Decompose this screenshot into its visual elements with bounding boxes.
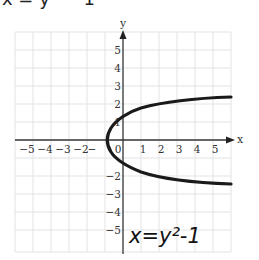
svg-text:−5: −5: [106, 224, 121, 236]
x-axis-label: x: [237, 133, 244, 146]
svg-text:−3: −3: [55, 143, 70, 155]
svg-text:4: 4: [114, 62, 121, 74]
handwritten-equation-annotation: x=y²-1: [128, 224, 201, 248]
y-axis-arrow-icon: [120, 30, 127, 39]
svg-text:0: 0: [115, 143, 122, 155]
y-axis-label: y: [119, 17, 127, 30]
svg-text:−5: −5: [19, 143, 34, 155]
svg-text:−4: −4: [37, 143, 53, 155]
svg-text:−3: −3: [106, 188, 121, 200]
svg-text:3: 3: [176, 143, 183, 155]
svg-text:3: 3: [114, 80, 121, 92]
svg-text:5: 5: [114, 44, 121, 56]
svg-text:−2: −2: [106, 170, 121, 182]
svg-text:−2: −2: [73, 143, 88, 155]
x-tick-labels: −5 −4 −3 −2 − 0 1 2 3 4 5: [19, 143, 218, 155]
svg-text:4: 4: [194, 143, 201, 155]
svg-text:2: 2: [158, 143, 165, 155]
svg-text:2: 2: [114, 98, 121, 110]
parabola-graph: x y −5 −4 −3 −2 − 0 1 2 3 4 5 5 4 3 2 1 …: [0, 0, 259, 260]
svg-text:−: −: [88, 143, 97, 155]
svg-text:−4: −4: [106, 206, 122, 218]
svg-text:1: 1: [140, 143, 147, 155]
svg-text:5: 5: [212, 143, 219, 155]
